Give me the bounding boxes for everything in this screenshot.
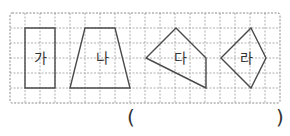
shapes-group: 가나다라 (25, 28, 266, 88)
open-parenthesis: ( (127, 104, 135, 130)
close-parenthesis: ) (276, 104, 284, 130)
shape-label-na: 나 (96, 50, 109, 66)
shape-label-ga: 가 (34, 50, 47, 66)
shape-label-da: 다 (174, 50, 187, 66)
shape-label-ra: 라 (240, 50, 253, 66)
answer-blank: ( ) (0, 104, 290, 130)
